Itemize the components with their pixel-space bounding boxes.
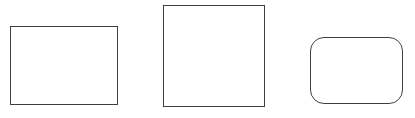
shapes-canvas <box>0 0 415 118</box>
rounded-rectangle-shape <box>310 37 403 104</box>
square-shape <box>163 5 265 107</box>
rectangle-shape <box>10 26 118 105</box>
